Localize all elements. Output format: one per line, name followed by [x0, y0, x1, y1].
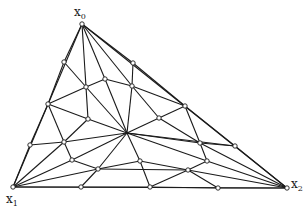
node-h [86, 117, 90, 121]
edge-x0-e [82, 24, 132, 86]
label-x0: x0 [74, 5, 86, 21]
edge-q-x1 [13, 169, 98, 187]
node-t [148, 185, 152, 189]
node-l [198, 141, 202, 145]
edge-x0-a [64, 24, 82, 62]
node-a [62, 60, 66, 64]
edge-e-hub [127, 86, 132, 133]
vertex-labels: x0x1x2 [6, 5, 303, 207]
label-x2: x2 [291, 177, 303, 193]
edge-g-i [159, 106, 185, 118]
vertex-x2 [285, 186, 289, 190]
edge-p-q [98, 161, 140, 169]
node-o [205, 159, 209, 163]
vertex-x1 [11, 185, 15, 189]
edge-c-hub [105, 79, 127, 133]
edge-l-x2 [200, 143, 287, 188]
edge-f-j [30, 104, 48, 145]
edge-d-h [86, 87, 88, 119]
node-f [46, 102, 50, 106]
edge-i-hub [127, 118, 159, 133]
edge-k-n [64, 142, 72, 160]
edge-hub-o [127, 133, 207, 161]
node-j [28, 143, 32, 147]
node-p [138, 159, 142, 163]
node-r [186, 168, 190, 172]
node-b [131, 61, 135, 65]
vertex-x0 [80, 22, 84, 26]
node-q [96, 167, 100, 171]
node-n [70, 158, 74, 162]
node-k [62, 140, 66, 144]
edge-g-m [185, 106, 235, 146]
edge-n-q [72, 160, 98, 169]
edge-hub-m [127, 133, 235, 146]
edge-q-r [98, 169, 188, 170]
edge-r-t [150, 170, 188, 187]
node-c [103, 77, 107, 81]
label-x1: x1 [6, 192, 18, 207]
edge-b-e [132, 63, 133, 86]
edge-hub-q [98, 133, 127, 169]
edge-j-k [30, 142, 64, 145]
edge-p-r [140, 161, 188, 170]
node-u [216, 186, 220, 190]
edge-a-d [64, 62, 86, 87]
edge-f-h [48, 104, 88, 119]
edge-c-d [86, 79, 105, 87]
edge-p-t [140, 161, 150, 187]
node-i [157, 116, 161, 120]
node-g [183, 104, 187, 108]
node-s [79, 185, 83, 189]
edge-o-r [188, 161, 207, 170]
triangulation-diagram: x0x1x2 [0, 0, 307, 207]
mesh-edges [13, 24, 287, 188]
node-e [130, 84, 134, 88]
edge-m-x2 [235, 146, 287, 188]
edge-c-e [105, 79, 132, 86]
node-m [233, 144, 237, 148]
edge-k-x1 [13, 142, 64, 187]
node-d [84, 85, 88, 89]
edge-b-g [133, 63, 185, 106]
edge-f-k [48, 104, 64, 142]
edge-o-x2 [207, 161, 287, 188]
